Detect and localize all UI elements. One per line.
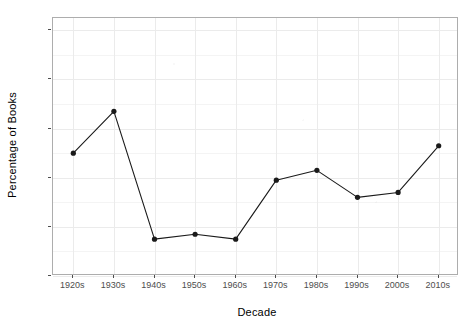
x-tick-mark — [438, 275, 439, 278]
x-tick-mark — [113, 275, 114, 278]
series-layer — [53, 18, 459, 276]
x-tick-mark — [154, 275, 155, 278]
x-tick-mark — [235, 275, 236, 278]
data-point — [111, 109, 116, 114]
plot-panel — [52, 17, 458, 275]
data-point — [193, 232, 198, 237]
data-point — [314, 168, 319, 173]
x-tick-mark — [194, 275, 195, 278]
y-tick-mark — [48, 177, 51, 178]
data-point — [274, 178, 279, 183]
line-chart: Percentage of Books 020406080100 1920s19… — [0, 0, 473, 329]
x-tick-label: 2010s — [408, 280, 468, 290]
x-tick-mark — [316, 275, 317, 278]
y-tick-mark — [48, 275, 51, 276]
x-tick-mark — [275, 275, 276, 278]
data-point — [233, 237, 238, 242]
y-tick-mark — [48, 226, 51, 227]
y-axis-title: Percentage of Books — [2, 0, 22, 290]
x-tick-mark — [397, 275, 398, 278]
x-tick-mark — [72, 275, 73, 278]
y-tick-mark — [48, 78, 51, 79]
data-point — [152, 237, 157, 242]
series-line — [73, 111, 438, 239]
data-point — [355, 195, 360, 200]
data-point — [71, 151, 76, 156]
y-tick-mark — [48, 29, 51, 30]
x-tick-mark — [357, 275, 358, 278]
data-point — [436, 143, 441, 148]
x-axis-title: Decade — [52, 306, 462, 318]
y-axis-title-label: Percentage of Books — [6, 92, 18, 198]
y-tick-mark — [48, 128, 51, 129]
series-points — [71, 109, 442, 242]
data-point — [396, 190, 401, 195]
